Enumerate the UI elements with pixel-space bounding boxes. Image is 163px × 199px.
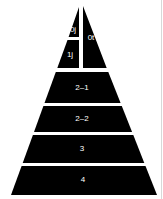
pyramid-diagram: 0j 0t 1j 2–1 2–2 3 4 bbox=[0, 0, 163, 199]
tier-0t bbox=[83, 3, 107, 68]
tier-2-1-label: 2–1 bbox=[75, 83, 89, 92]
tier-1j-label: 1j bbox=[67, 50, 73, 59]
tier-4-label: 4 bbox=[81, 175, 86, 184]
right-border-line bbox=[161, 0, 162, 199]
tier-0j-label: 0j bbox=[70, 25, 76, 34]
tier-3-label: 3 bbox=[80, 144, 85, 153]
tier-0t-label: 0t bbox=[88, 33, 95, 42]
tier-2-2-label: 2–2 bbox=[75, 114, 89, 123]
